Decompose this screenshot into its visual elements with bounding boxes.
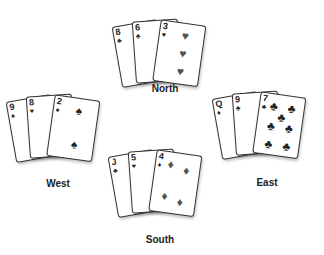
diamond-icon: ♦	[157, 161, 162, 168]
label-south: South	[130, 234, 190, 245]
club-icon: ♣	[287, 102, 296, 115]
card-rank: 8	[29, 98, 35, 107]
card: 3 ♥ ♥ ♥ ♥	[152, 19, 206, 87]
diamond-icon: ♦	[167, 158, 175, 171]
label-east: East	[237, 177, 297, 188]
club-icon: ♣	[235, 104, 240, 111]
heart-icon: ♥	[161, 31, 166, 39]
club-icon: ♣	[116, 36, 122, 44]
spade-icon: ♠	[75, 105, 83, 118]
hand-west: 9 ♠ 8 ♥ 2 ♠ ♠ ♠	[10, 93, 100, 173]
club-icon: ♣	[269, 100, 278, 113]
diamond-icon: ♦	[182, 164, 190, 177]
club-icon: ♣	[266, 120, 275, 133]
hand-east: Q ♦ 9 ♣ 7 ♣ ♣ ♣ ♣ ♣ ♣ ♣ ♣	[218, 90, 313, 170]
diamond-icon: ♦	[176, 196, 184, 209]
club-icon: ♣	[277, 111, 286, 124]
card: 4 ♦ ♦ ♦ ♦ ♦	[148, 149, 202, 217]
card-rank: 9	[235, 95, 241, 104]
spade-icon: ♠	[10, 112, 15, 120]
card: 7 ♣ ♣ ♣ ♣ ♣ ♣ ♣ ♣	[252, 91, 306, 159]
heart-icon: ♥	[131, 162, 136, 169]
diamond-icon: ♦	[161, 190, 169, 203]
heart-icon: ♥	[176, 65, 185, 78]
club-icon: ♣	[261, 103, 267, 111]
label-north: North	[135, 83, 195, 94]
spade-icon: ♠	[55, 106, 60, 113]
diamond-icon: ♦	[216, 109, 221, 117]
heart-icon: ♥	[178, 47, 187, 60]
spade-icon: ♠	[70, 138, 78, 151]
card-rank: 5	[131, 153, 137, 162]
club-icon: ♣	[112, 166, 118, 174]
card: 2 ♠ ♠ ♠	[46, 94, 100, 162]
heart-icon: ♥	[29, 107, 34, 114]
heart-icon: ♥	[181, 30, 190, 43]
label-west: West	[28, 178, 88, 189]
club-icon: ♣	[282, 140, 291, 153]
club-icon: ♣	[135, 32, 140, 39]
club-icon: ♣	[284, 122, 293, 135]
club-icon: ♣	[264, 137, 273, 150]
card-rank: 6	[135, 23, 141, 32]
hand-south: J ♣ 5 ♥ 4 ♦ ♦ ♦ ♦ ♦	[112, 148, 207, 228]
